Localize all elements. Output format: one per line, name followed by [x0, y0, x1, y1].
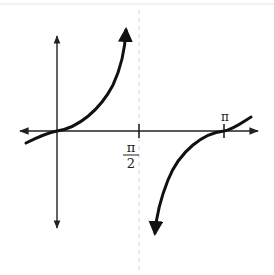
curve-right-branch — [155, 117, 251, 233]
function-graph: π 2 π — [0, 0, 274, 275]
label-pi: π — [221, 110, 229, 124]
label-pi-over-2: π 2 — [123, 140, 139, 171]
curve-left-branch — [26, 30, 126, 143]
svg-text:2: 2 — [127, 156, 135, 171]
svg-text:π: π — [127, 140, 136, 155]
